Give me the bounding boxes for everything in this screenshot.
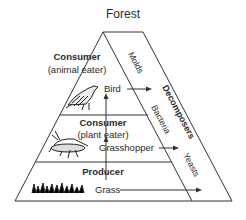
decomposer-molds: Molds xyxy=(126,50,145,75)
decomposer-bacteria: Bacteria xyxy=(149,103,173,135)
level-top-role: Consumer xyxy=(54,51,101,62)
bird-icon xyxy=(66,86,98,110)
level-mid-organism: Grasshopper xyxy=(99,142,154,153)
grass-icon xyxy=(32,183,84,193)
decomposer-yeasts: Yeasts xyxy=(181,151,202,178)
diagram-title: Forest xyxy=(106,7,141,21)
level-mid-subrole: (plant eater) xyxy=(77,129,128,140)
level-bottom-organism: Grass xyxy=(95,184,121,195)
level-bottom-role: Producer xyxy=(82,166,124,177)
level-top-organism: Bird xyxy=(104,83,121,94)
decomposers-band: Molds Bacteria Yeasts Decomposers xyxy=(126,50,202,178)
level-mid-role: Consumer xyxy=(80,117,127,128)
food-pyramid-diagram: Forest Consumer (animal eater) Bird Co xyxy=(0,0,246,220)
level-top-subrole: (animal eater) xyxy=(48,64,107,75)
